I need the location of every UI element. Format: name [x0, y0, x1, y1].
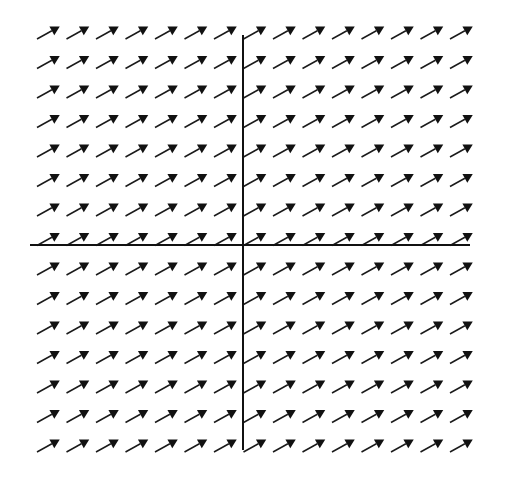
plot-canvas [0, 0, 505, 478]
plot-background [0, 0, 505, 478]
slope-field-figure [0, 0, 505, 478]
